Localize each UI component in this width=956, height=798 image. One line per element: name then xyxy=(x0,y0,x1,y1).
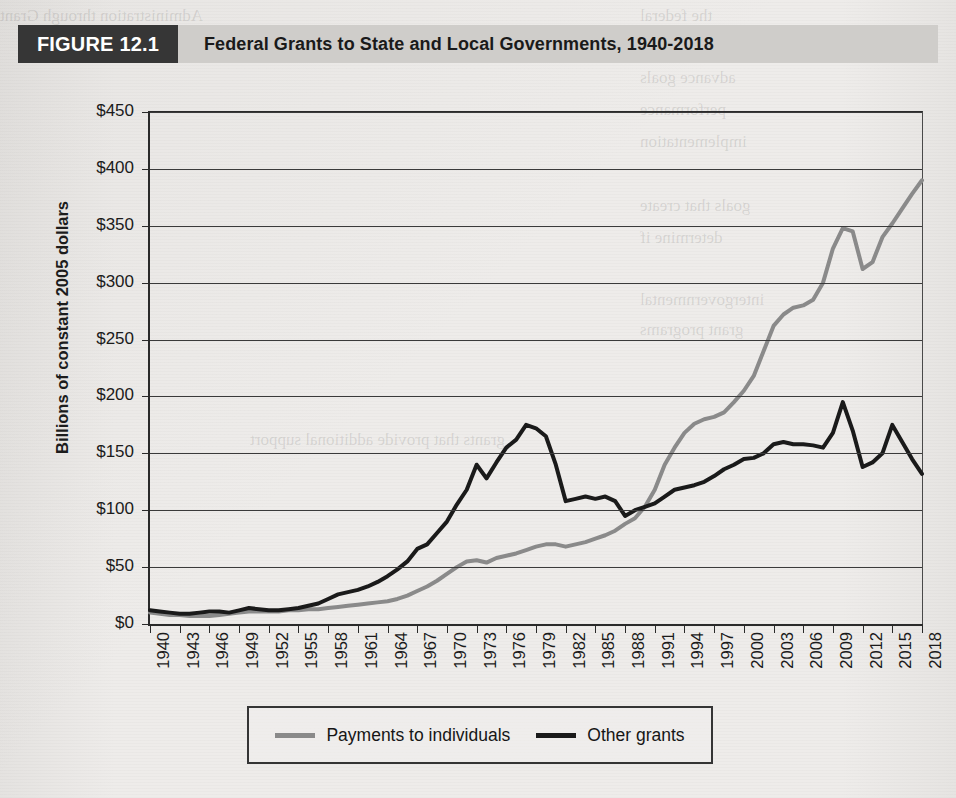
y-axis-tick-label: $350 xyxy=(64,215,134,235)
chart-legend: Payments to individualsOther grants xyxy=(247,706,713,764)
x-axis-tick-label: 2009 xyxy=(837,632,856,669)
gridline xyxy=(150,283,922,284)
y-axis-tick-mark xyxy=(142,453,150,454)
series-line xyxy=(150,402,922,614)
x-axis-tick-label: 2015 xyxy=(896,632,915,669)
gridline xyxy=(150,112,922,113)
y-axis-tick-mark xyxy=(142,226,150,227)
gridline xyxy=(150,396,922,397)
y-axis-tick-label: $300 xyxy=(64,272,134,292)
gridline xyxy=(150,453,922,454)
gridline xyxy=(150,567,922,568)
x-axis-tick-label: 1961 xyxy=(362,632,381,669)
x-axis-tick-label: 1952 xyxy=(273,632,292,669)
gridline xyxy=(150,169,922,170)
x-axis-tick-label: 1979 xyxy=(540,632,559,669)
x-axis-tick-label: 2012 xyxy=(867,632,886,669)
x-axis-tick-label: 2018 xyxy=(926,632,945,669)
x-axis-tick-label: 1946 xyxy=(213,632,232,669)
y-axis-tick-label: $250 xyxy=(64,329,134,349)
y-axis-tick-mark xyxy=(142,169,150,170)
figure-banner: FIGURE 12.1 Federal Grants to State and … xyxy=(18,25,938,63)
x-axis-tick-label: 1943 xyxy=(184,632,203,669)
figure-title: Federal Grants to State and Local Govern… xyxy=(178,25,938,63)
x-axis-tick-label: 1940 xyxy=(154,632,173,669)
figure-page: Administration through Grant the federal… xyxy=(0,0,956,798)
y-axis-tick-mark xyxy=(142,112,150,113)
x-axis-tick-label: 1997 xyxy=(718,632,737,669)
y-axis-tick-label: $400 xyxy=(64,158,134,178)
x-axis-tick-label: 1964 xyxy=(392,632,411,669)
y-axis-tick-mark xyxy=(142,567,150,568)
x-axis-tick-label: 1955 xyxy=(302,632,321,669)
y-axis-tick-label: $450 xyxy=(64,101,134,121)
legend-entry: Payments to individuals xyxy=(275,725,510,746)
ghost-text: the federal xyxy=(640,6,712,26)
gridline xyxy=(150,340,922,341)
x-axis-tick-label: 1982 xyxy=(570,632,589,669)
x-axis-tick-label: 2006 xyxy=(807,632,826,669)
y-axis-tick-mark xyxy=(142,396,150,397)
gridline xyxy=(150,226,922,227)
legend-label: Other grants xyxy=(587,725,684,746)
legend-entry: Other grants xyxy=(536,725,684,746)
gridline xyxy=(150,510,922,511)
ghost-text: Administration through Grant xyxy=(0,6,203,26)
x-axis-tick-label: 2000 xyxy=(748,632,767,669)
x-axis-tick-label: 1976 xyxy=(510,632,529,669)
y-axis-tick-label: $200 xyxy=(64,385,134,405)
series-lines xyxy=(150,112,922,624)
x-axis-tick-label: 1973 xyxy=(481,632,500,669)
x-axis-tick-label: 1970 xyxy=(451,632,470,669)
y-axis-tick-labels: $450$400$350$300$250$200$150$100$50$0 xyxy=(58,80,134,623)
x-axis-tick-label: 2003 xyxy=(778,632,797,669)
legend-swatch xyxy=(536,733,576,738)
figure-number: FIGURE 12.1 xyxy=(18,25,178,63)
x-axis-tick-label: 1991 xyxy=(659,632,678,669)
series-line xyxy=(150,180,922,616)
y-axis-tick-mark xyxy=(142,624,150,625)
legend-swatch xyxy=(275,733,315,738)
chart: Billions of constant 2005 dollars $450$4… xyxy=(0,80,956,680)
x-axis-tick-mark xyxy=(922,624,923,633)
x-axis-tick-label: 1949 xyxy=(243,632,262,669)
x-axis-tick-label: 1958 xyxy=(332,632,351,669)
y-axis-tick-mark xyxy=(142,340,150,341)
y-axis-tick-mark xyxy=(142,510,150,511)
x-axis-tick-label: 1994 xyxy=(688,632,707,669)
y-axis-tick-label: $100 xyxy=(64,499,134,519)
x-axis-tick-label: 1988 xyxy=(629,632,648,669)
y-axis-tick-mark xyxy=(142,283,150,284)
plot-area xyxy=(148,111,923,626)
legend-label: Payments to individuals xyxy=(326,725,510,746)
y-axis-tick-label: $0 xyxy=(64,613,134,633)
x-axis-tick-label: 1985 xyxy=(599,632,618,669)
x-axis-tick-label: 1967 xyxy=(421,632,440,669)
y-axis-tick-label: $150 xyxy=(64,442,134,462)
y-axis-tick-label: $50 xyxy=(64,556,134,576)
